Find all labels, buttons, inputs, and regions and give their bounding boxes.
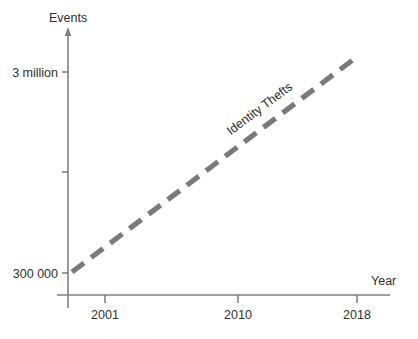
- cropped-footer-text: ......... ... ..... .... .. ...... ... .…: [0, 330, 418, 339]
- y-axis-title: Events: [49, 11, 87, 25]
- chart-canvas: Events Year 3 million 300 000 2001 2010 …: [0, 0, 418, 339]
- y-tick-label-3-million: 3 million: [12, 66, 58, 80]
- x-tick-label-2001: 2001: [91, 308, 119, 322]
- y-axis-arrow-icon: [65, 27, 72, 36]
- x-tick-label-2018: 2018: [343, 308, 371, 322]
- x-axis-title: Year: [371, 274, 396, 288]
- x-tick-label-2010: 2010: [224, 308, 252, 322]
- identity-thefts-chart: Events Year 3 million 300 000 2001 2010 …: [0, 0, 418, 339]
- identity-thefts-series-line: [72, 56, 358, 272]
- y-tick-label-300-000: 300 000: [13, 267, 58, 281]
